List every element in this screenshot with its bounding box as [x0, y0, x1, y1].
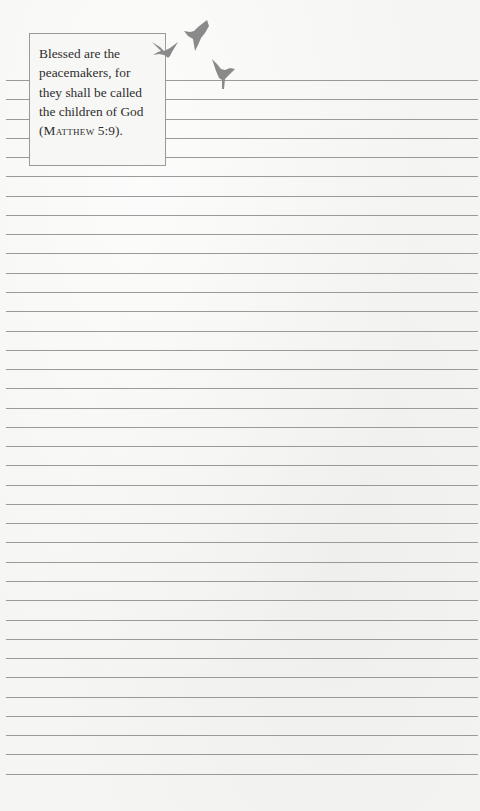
verse-line-2: peacemakers, for	[39, 65, 130, 80]
ruled-line	[6, 427, 478, 428]
ruled-line	[6, 774, 478, 775]
journal-page: Blessed are the peacemakers, for they sh…	[0, 0, 480, 811]
ruled-line	[6, 388, 478, 389]
ruled-line	[6, 273, 478, 274]
ruled-line	[6, 253, 478, 254]
verse-box: Blessed are the peacemakers, for they sh…	[29, 33, 166, 166]
ruled-line	[6, 465, 478, 466]
ruled-line	[6, 754, 478, 755]
ruled-line	[6, 350, 478, 351]
ruled-line	[6, 215, 478, 216]
ruled-line	[6, 504, 478, 505]
citation-book: Matthew	[43, 123, 94, 138]
verse-citation: (Matthew 5:9).	[39, 123, 123, 138]
ruled-line	[6, 735, 478, 736]
bird-icon	[183, 19, 211, 53]
bird-icon	[151, 38, 181, 62]
ruled-line	[6, 234, 478, 235]
ruled-line	[6, 639, 478, 640]
ruled-line	[6, 620, 478, 621]
ruled-line	[6, 331, 478, 332]
ruled-line	[6, 176, 478, 177]
ruled-line	[6, 581, 478, 582]
ruled-line	[6, 485, 478, 486]
ruled-line	[6, 600, 478, 601]
ruled-line	[6, 369, 478, 370]
ruled-line	[6, 716, 478, 717]
verse-text: Blessed are the peacemakers, for they sh…	[39, 44, 157, 140]
verse-line-1: Blessed are the	[39, 46, 120, 61]
ruled-line	[6, 408, 478, 409]
ruled-line	[6, 542, 478, 543]
ruled-line	[6, 658, 478, 659]
ruled-line	[6, 196, 478, 197]
ruled-line	[6, 562, 478, 563]
citation-ref: 5:9	[94, 123, 114, 138]
ruled-line	[6, 697, 478, 698]
verse-line-3: they shall be called	[39, 85, 142, 100]
ruled-line	[6, 677, 478, 678]
ruled-line	[6, 523, 478, 524]
ruled-line	[6, 446, 478, 447]
verse-line-4: the children of God	[39, 104, 144, 119]
ruled-line	[6, 311, 478, 312]
ruled-line	[6, 292, 478, 293]
bird-icon	[211, 58, 237, 90]
